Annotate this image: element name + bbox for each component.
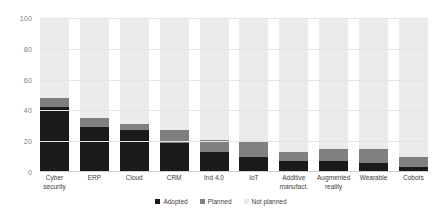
bar-segment[interactable] xyxy=(40,98,69,107)
bar-column[interactable] xyxy=(40,18,69,172)
y-axis-tick-80: 80 xyxy=(24,45,32,52)
x-axis-label: CRM xyxy=(155,174,193,198)
legend-swatch-icon xyxy=(200,199,205,204)
y-axis-tick-60: 60 xyxy=(24,76,32,83)
y-axis-tick-0: 0 xyxy=(28,169,32,176)
legend-label: Not planned xyxy=(252,198,287,205)
bar-segment[interactable] xyxy=(279,152,308,161)
x-axis-label: ERP xyxy=(75,174,113,198)
bar-segment[interactable] xyxy=(239,141,268,156)
legend-label: Adopted xyxy=(163,198,187,205)
legend-label: Planned xyxy=(208,198,232,205)
bar-segment[interactable] xyxy=(359,149,388,163)
y-axis-tick-40: 40 xyxy=(24,107,32,114)
gridline-100 xyxy=(40,18,428,19)
x-axis-label: Cyber security xyxy=(36,174,74,198)
y-axis-tick-100: 100 xyxy=(20,15,32,22)
x-axis-label: IoT xyxy=(235,174,273,198)
bar-segment[interactable] xyxy=(319,149,348,161)
bar-segment[interactable] xyxy=(80,18,109,118)
bar-segment[interactable] xyxy=(200,152,229,172)
bar-segment[interactable] xyxy=(160,18,189,130)
bar-column[interactable] xyxy=(359,18,388,172)
bar-segment[interactable] xyxy=(40,18,69,98)
bar-column[interactable] xyxy=(120,18,149,172)
bar-segment[interactable] xyxy=(120,18,149,124)
stacked-bar-chart: 020406080100 Cyber securityERPCloudCRMIn… xyxy=(0,0,442,212)
x-axis-label: Wearable xyxy=(355,174,393,198)
legend-swatch-icon xyxy=(244,199,249,204)
legend-swatch-icon xyxy=(155,199,160,204)
y-axis-tick-20: 20 xyxy=(24,138,32,145)
chart-legend: AdoptedPlannedNot planned xyxy=(0,198,442,205)
legend-item[interactable]: Planned xyxy=(200,198,232,205)
bar-segment[interactable] xyxy=(40,107,69,172)
bar-group xyxy=(40,18,428,172)
bar-segment[interactable] xyxy=(80,127,109,172)
x-axis-label: Augmented reality xyxy=(315,174,353,198)
gridline-80 xyxy=(40,49,428,50)
bar-column[interactable] xyxy=(80,18,109,172)
bar-column[interactable] xyxy=(200,18,229,172)
bar-segment[interactable] xyxy=(120,130,149,172)
x-axis-label: Ind 4.0 xyxy=(195,174,233,198)
bar-segment[interactable] xyxy=(239,157,268,172)
bar-segment[interactable] xyxy=(359,18,388,149)
bar-segment[interactable] xyxy=(80,118,109,127)
bar-column[interactable] xyxy=(319,18,348,172)
y-axis: 020406080100 xyxy=(0,18,36,172)
x-axis-label: Additive manufact. xyxy=(275,174,313,198)
x-axis-label: Cloud xyxy=(115,174,153,198)
bar-segment[interactable] xyxy=(399,157,428,168)
bar-segment[interactable] xyxy=(160,143,189,172)
gridline-20 xyxy=(40,141,428,142)
plot-area xyxy=(40,18,428,172)
bar-column[interactable] xyxy=(160,18,189,172)
x-axis-line xyxy=(40,171,428,172)
bar-column[interactable] xyxy=(399,18,428,172)
legend-item[interactable]: Not planned xyxy=(244,198,287,205)
bar-segment[interactable] xyxy=(279,18,308,152)
x-axis-label: Cobots xyxy=(394,174,432,198)
x-axis-labels: Cyber securityERPCloudCRMInd 4.0IoTAddit… xyxy=(40,174,428,198)
bar-column[interactable] xyxy=(239,18,268,172)
bar-segment[interactable] xyxy=(319,18,348,149)
bar-segment[interactable] xyxy=(399,18,428,157)
gridline-40 xyxy=(40,110,428,111)
legend-item[interactable]: Adopted xyxy=(155,198,187,205)
gridline-60 xyxy=(40,80,428,81)
bar-column[interactable] xyxy=(279,18,308,172)
